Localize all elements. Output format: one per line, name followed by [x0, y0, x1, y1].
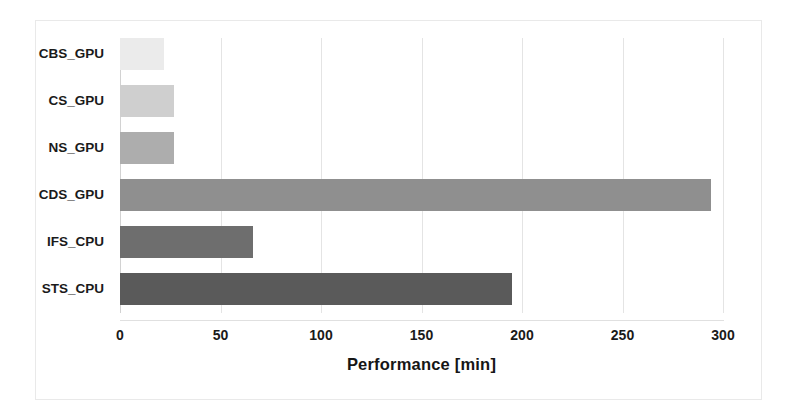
category-label-cs_gpu: CS_GPU [48, 85, 104, 117]
plot-area [120, 38, 723, 320]
x-axis-baseline [120, 320, 724, 321]
x-tick-0: 0 [116, 327, 124, 343]
category-label-cds_gpu: CDS_GPU [39, 179, 104, 211]
bar-row[interactable] [120, 132, 174, 164]
bar-cds_gpu[interactable] [120, 179, 711, 211]
bar-sts_cpu[interactable] [120, 273, 512, 305]
x-tick-300: 300 [711, 327, 734, 343]
x-axis-tick-labels: 050100150200250300 [0, 327, 799, 349]
category-label-sts_cpu: STS_CPU [42, 273, 104, 305]
x-tick-250: 250 [611, 327, 634, 343]
bar-cbs_gpu[interactable] [120, 38, 164, 70]
bar-ns_gpu[interactable] [120, 132, 174, 164]
x-tick-100: 100 [309, 327, 332, 343]
x-axis-title: Performance [min] [120, 355, 723, 374]
bar-row[interactable] [120, 85, 174, 117]
bar-row[interactable] [120, 226, 253, 258]
bar-row[interactable] [120, 273, 512, 305]
x-tick-150: 150 [410, 327, 433, 343]
category-label-cbs_gpu: CBS_GPU [39, 38, 104, 70]
x-tick-200: 200 [510, 327, 533, 343]
bar-row[interactable] [120, 179, 711, 211]
category-label-ns_gpu: NS_GPU [48, 132, 104, 164]
x-tick-50: 50 [213, 327, 229, 343]
bar-chart-figure: CBS_GPUCS_GPUNS_GPUCDS_GPUIFS_CPUSTS_CPU… [0, 0, 799, 420]
gridline-300 [723, 38, 724, 313]
y-axis-category-labels: CBS_GPUCS_GPUNS_GPUCDS_GPUIFS_CPUSTS_CPU [0, 38, 112, 320]
bar-cs_gpu[interactable] [120, 85, 174, 117]
bar-ifs_cpu[interactable] [120, 226, 253, 258]
category-label-ifs_cpu: IFS_CPU [47, 226, 104, 258]
bar-row[interactable] [120, 38, 164, 70]
